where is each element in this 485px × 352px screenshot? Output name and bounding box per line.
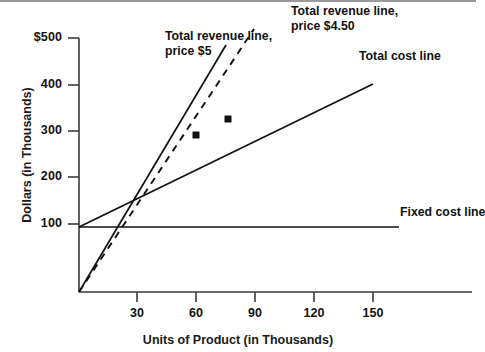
- y-tick-label-500: $500: [6, 30, 62, 45]
- y-axis-title-wrapper: Dollars (in Thousands): [17, 75, 35, 235]
- total-revenue-price-5-annotation-line1: Total revenue line,: [165, 29, 272, 44]
- x-axis-ticks: [137, 292, 373, 302]
- x-tick-label-30: 30: [114, 306, 160, 321]
- total-revenue-price-450-annotation-line2: price $4.50: [291, 19, 398, 34]
- x-axis-title-wrapper: Units of Product (in Thousands): [108, 330, 368, 348]
- marker-break-even-price-5: [193, 132, 200, 139]
- total-revenue-line-price-5: [79, 45, 226, 292]
- x-axis-title: Units of Product (in Thousands): [143, 333, 333, 347]
- total-revenue-price-450-annotation: Total revenue line, price $4.50: [291, 4, 398, 35]
- total-revenue-line-price-4-50: [79, 29, 254, 292]
- total-revenue-price-450-annotation-line1: Total revenue line,: [291, 4, 398, 19]
- x-tick-label-90: 90: [232, 306, 278, 321]
- total-revenue-price-5-annotation-line2: price $5: [165, 44, 272, 59]
- y-axis-ticks: [68, 38, 79, 224]
- total-cost-annotation: Total cost line: [359, 49, 441, 64]
- total-revenue-price-5-annotation: Total revenue line, price $5: [165, 29, 272, 60]
- x-tick-label-60: 60: [173, 306, 219, 321]
- y-axis-title: Dollars (in Thousands): [20, 87, 34, 222]
- marker-break-even-price-4-50: [225, 116, 232, 123]
- fixed-cost-annotation: Fixed cost line: [400, 205, 485, 220]
- total-cost-line: [79, 84, 373, 227]
- x-tick-label-120: 120: [291, 306, 337, 321]
- x-tick-label-150: 150: [350, 306, 396, 321]
